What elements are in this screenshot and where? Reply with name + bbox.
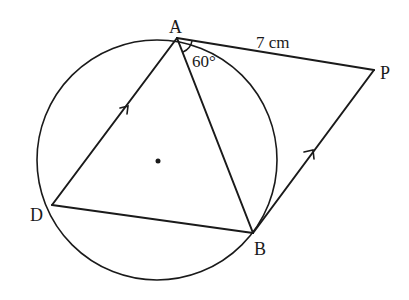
label-P: P — [380, 64, 390, 82]
label-B: B — [254, 240, 266, 258]
segment-DB — [52, 205, 253, 233]
geometry-diagram: A P B D 7 cm 60° — [0, 0, 409, 300]
label-D: D — [30, 206, 43, 224]
center-dot — [156, 159, 161, 164]
angle-label-PAB: 60° — [192, 53, 216, 70]
length-label-AP: 7 cm — [256, 34, 290, 51]
segment-AD — [52, 38, 177, 205]
label-A: A — [169, 18, 182, 36]
diagram-svg — [0, 0, 409, 300]
